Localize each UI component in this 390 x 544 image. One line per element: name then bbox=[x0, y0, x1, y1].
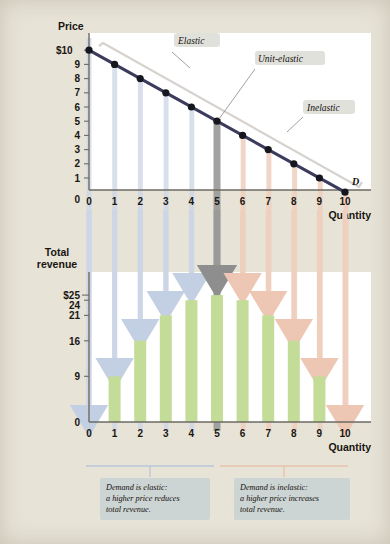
price-y-tick-8: 8 bbox=[74, 73, 80, 84]
revenue-y-tick-21: 21 bbox=[69, 310, 81, 321]
right-caption-line1: Demand is inelastic: bbox=[239, 483, 308, 492]
revenue-y-tick-16: 16 bbox=[69, 336, 81, 347]
revenue-x-tick-6: 6 bbox=[240, 428, 246, 439]
price-quantity-axis-title: Quantity bbox=[328, 209, 371, 221]
price-x-tick-2: 2 bbox=[137, 196, 143, 207]
revenue-x-tick-3: 3 bbox=[163, 428, 169, 439]
right-caption-box: Demand is inelastic: a higher price incr… bbox=[234, 478, 350, 520]
left-caption-line2: a higher price reduces bbox=[106, 494, 180, 503]
price-axis-title: Price bbox=[58, 20, 84, 32]
revenue-x-tick-9: 9 bbox=[317, 428, 323, 439]
left-caption-line3: total revenue. bbox=[106, 505, 151, 514]
bar-q1 bbox=[109, 376, 121, 422]
price-x-tick-3: 3 bbox=[163, 196, 169, 207]
revenue-x-tick-0: 0 bbox=[86, 428, 92, 439]
price-x-tick-7: 7 bbox=[265, 196, 271, 207]
price-x-tick-4: 4 bbox=[189, 196, 195, 207]
price-y-tick-1: 1 bbox=[74, 173, 80, 184]
price-y-tick-5: 5 bbox=[74, 116, 80, 127]
bar-q6 bbox=[237, 300, 249, 422]
price-x-tick-9: 9 bbox=[317, 196, 323, 207]
price-y-tick-2: 2 bbox=[74, 158, 80, 169]
bar-q5 bbox=[211, 295, 223, 422]
caption-connectors bbox=[86, 466, 348, 477]
price-y-tick-4: 4 bbox=[74, 130, 80, 141]
price-x-tick-6: 6 bbox=[240, 196, 246, 207]
inelastic-label: Inelastic bbox=[306, 103, 340, 113]
revenue-x-tick-1: 1 bbox=[112, 428, 118, 439]
bar-q4 bbox=[185, 300, 197, 422]
revenue-axis-title-line1: Total bbox=[45, 246, 69, 258]
revenue-x-tick-5: 5 bbox=[214, 428, 220, 439]
price-y-tick-7: 7 bbox=[74, 87, 80, 98]
price-x-tick-10: 10 bbox=[339, 196, 351, 207]
unit-elastic-label: Unit-elastic bbox=[258, 54, 304, 64]
revenue-y-tick-9: 9 bbox=[74, 371, 80, 382]
bar-q8 bbox=[288, 341, 300, 422]
bar-q7 bbox=[262, 315, 274, 422]
price-y-tick-3: 3 bbox=[74, 144, 80, 155]
price-y-tick-9: 9 bbox=[74, 59, 80, 70]
elastic-label-group: Elastic bbox=[174, 33, 220, 47]
revenue-x-tick-2: 2 bbox=[137, 428, 143, 439]
revenue-quantity-axis-title: Quantity bbox=[328, 441, 371, 453]
price-x-tick-0: 0 bbox=[86, 196, 92, 207]
price-x-tick-8: 8 bbox=[291, 196, 297, 207]
inelastic-label-group: Inelastic bbox=[303, 100, 355, 114]
price-y-tick-6: 6 bbox=[74, 102, 80, 113]
revenue-x-tick-4: 4 bbox=[189, 428, 195, 439]
unit-elastic-label-group: Unit-elastic bbox=[255, 51, 325, 65]
elastic-label: Elastic bbox=[177, 36, 205, 46]
revenue-axis-title-line2: revenue bbox=[37, 258, 77, 270]
bar-q9 bbox=[313, 376, 325, 422]
price-x-tick-1: 1 bbox=[112, 196, 118, 207]
figure-container: Elastic Unit-elastic Inelastic D Price $… bbox=[0, 0, 390, 544]
left-caption-line1: Demand is elastic: bbox=[105, 483, 168, 492]
revenue-x-tick-7: 7 bbox=[265, 428, 271, 439]
revenue-y-tick-0: 0 bbox=[74, 417, 80, 428]
revenue-x-tick-8: 8 bbox=[291, 428, 297, 439]
left-caption-box: Demand is elastic: a higher price reduce… bbox=[100, 478, 210, 520]
revenue-x-tick-10: 10 bbox=[339, 428, 351, 439]
bar-q2 bbox=[134, 341, 146, 422]
right-caption-line3: total revenue. bbox=[240, 505, 285, 514]
bar-q3 bbox=[160, 315, 172, 422]
price-y-tick-10: $10 bbox=[56, 45, 73, 56]
price-y-tick-0: 0 bbox=[74, 194, 80, 205]
price-x-tick-5: 5 bbox=[214, 196, 220, 207]
revenue-y-tick-25: $25 bbox=[63, 290, 80, 301]
demand-curve-label: D bbox=[351, 176, 359, 187]
figure-canvas: Elastic Unit-elastic Inelastic D Price $… bbox=[0, 0, 390, 544]
revenue-plot-background bbox=[89, 272, 371, 422]
right-caption-line2: a higher price increases bbox=[240, 494, 319, 503]
